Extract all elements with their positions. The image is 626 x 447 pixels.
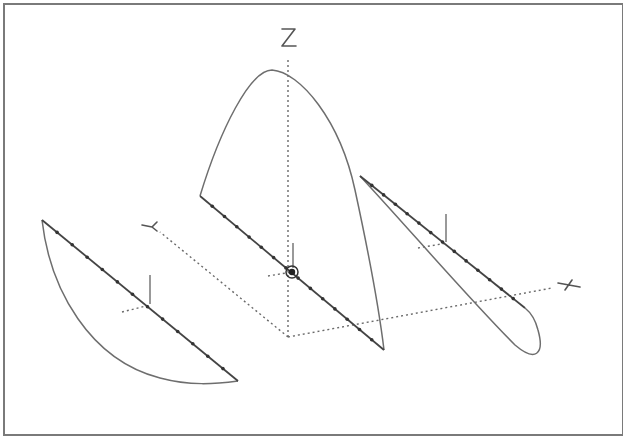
- left-profile-marker: [191, 342, 195, 346]
- center-profile: [200, 70, 384, 350]
- center-profile-marker: [370, 338, 374, 342]
- left-profile-marker: [131, 293, 135, 297]
- left-profile-marker: [161, 317, 165, 321]
- right-profile-marker: [429, 231, 433, 235]
- left-profile-marker: [176, 330, 180, 334]
- right-profile-marker: [453, 250, 457, 254]
- left-profile-marker: [221, 367, 225, 371]
- left-profile-marker: [206, 354, 210, 358]
- left-profile-marker: [146, 305, 150, 309]
- right-profile-marker: [488, 278, 492, 282]
- z-axis-label: [282, 29, 296, 46]
- right-profile-marker: [441, 240, 445, 244]
- right-profile-marker: [370, 184, 374, 188]
- center-profile-marker: [272, 256, 276, 260]
- center-profile-marker: [358, 328, 362, 332]
- left-profile-marker: [116, 280, 120, 284]
- center-profile-marker: [235, 225, 239, 229]
- right-profile: [360, 176, 540, 354]
- right-profile-marker: [500, 287, 504, 291]
- left-profile-marker: [70, 243, 74, 247]
- left-profile-marker: [101, 268, 105, 272]
- right-profile-marker: [382, 193, 386, 197]
- left-profile-marker: [55, 231, 59, 235]
- beam-markers: [55, 184, 515, 371]
- center-profile-marker: [223, 215, 227, 219]
- y-axis-label: [142, 222, 157, 231]
- right-profile-marker: [417, 221, 421, 225]
- center-profile-marker: [345, 317, 349, 321]
- y-axis: [160, 232, 288, 337]
- axes: [122, 60, 552, 337]
- right-profile-marker: [511, 297, 515, 301]
- center-profile-marker: [296, 276, 300, 280]
- right-profile-marker: [394, 203, 398, 207]
- center-profile-marker: [333, 307, 337, 311]
- diagram-canvas: [0, 0, 626, 447]
- right-profile-marker: [405, 212, 409, 216]
- center-profile-marker: [260, 246, 264, 250]
- center-profile-marker: [247, 235, 251, 239]
- right-profile-marker: [464, 259, 468, 263]
- left-profile-marker: [85, 255, 89, 259]
- center-profile-marker: [211, 205, 215, 209]
- right-profile-marker: [476, 269, 480, 273]
- x-axis-label: [558, 280, 580, 290]
- center-profile-marker: [321, 297, 325, 301]
- center-profile-marker: [309, 287, 313, 291]
- x-axis: [288, 288, 552, 337]
